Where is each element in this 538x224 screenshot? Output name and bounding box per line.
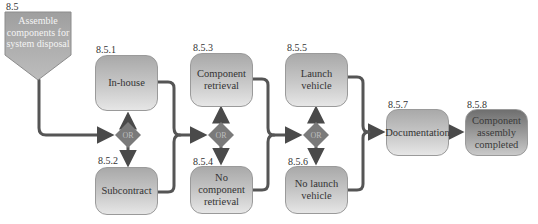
node-id: 8.5.2 [98,156,118,166]
node-in-house: In-house [95,55,158,111]
node-label: No component retrieval [193,172,250,208]
node-label: Documentation [385,127,450,139]
node-documentation: Documentation [386,109,449,156]
flow-diagram: 8.5 Assemble components for system dispo… [0,0,538,224]
node-no-component-retrieval: No component retrieval [190,166,253,214]
node-label: Launch vehicle [288,68,345,92]
connector-lines [0,0,538,224]
root-node-label: Assemble components for system disposal [6,15,70,50]
node-id: 8.5.1 [96,45,116,55]
node-launch-vehicle: Launch vehicle [285,53,348,107]
node-no-launch-vehicle: No launch vehicle [285,166,348,214]
node-label: In-house [108,77,145,89]
node-label: Component retrieval [193,68,250,92]
node-subcontract: Subcontract [95,167,158,215]
node-label: Subcontract [101,185,151,197]
or-gate-label: OR [301,131,331,140]
node-id: 8.5.5 [287,43,307,53]
node-component-retrieval: Component retrieval [190,53,253,107]
or-gate-label: OR [113,131,143,140]
node-label: No launch vehicle [288,178,345,202]
node-id: 8.5.3 [193,43,213,53]
or-gate-label: OR [206,131,236,140]
node-component-assembly-completed: Component assembly completed [465,109,528,156]
node-label: Component assembly completed [468,115,525,151]
